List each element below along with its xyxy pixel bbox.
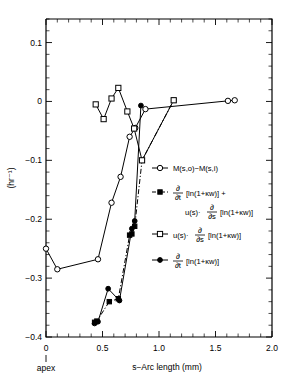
series-line-3 bbox=[95, 106, 141, 324]
y-ticklabel: −0.2 bbox=[25, 214, 42, 224]
marker-open-square bbox=[93, 102, 98, 107]
chart-figure: 00.51.01.52.00.10−0.1−0.2−0.3−0.4s−Arc l… bbox=[0, 0, 299, 384]
axis-frame-top-right bbox=[46, 19, 272, 337]
legend-label-1b-pre: u(s)· bbox=[185, 208, 201, 217]
marker-filled-circle bbox=[132, 219, 137, 224]
marker-filled-circle bbox=[129, 226, 134, 231]
x-ticklabel: 0.5 bbox=[97, 343, 109, 353]
y-ticklabel: −0.4 bbox=[25, 332, 42, 342]
y-ticklabel: −0.1 bbox=[25, 155, 42, 165]
marker-open-square bbox=[125, 109, 130, 114]
legend-frac-den-3: ∂t bbox=[175, 261, 182, 270]
marker-filled-circle bbox=[106, 286, 111, 291]
axis-frame-left-bottom bbox=[46, 19, 272, 337]
x-axis-title: s−Arc length (mm) bbox=[132, 362, 202, 372]
marker-open-circle bbox=[118, 174, 123, 179]
legend-label-2: [ln(1+κw)] bbox=[208, 231, 241, 240]
marker-open-square bbox=[139, 158, 144, 163]
marker-open-circle bbox=[95, 257, 100, 262]
marker-filled-circle bbox=[96, 319, 101, 324]
marker-filled-square bbox=[107, 299, 111, 303]
x-ticklabel: 2.0 bbox=[266, 343, 278, 353]
legend-frac-num-3: ∂ bbox=[176, 252, 180, 261]
marker-open-circle bbox=[157, 165, 162, 170]
marker-open-square bbox=[116, 85, 121, 90]
marker-open-square bbox=[132, 126, 137, 131]
marker-filled-square bbox=[158, 190, 162, 194]
marker-open-circle bbox=[109, 200, 114, 205]
legend-label-0: M(s,o)−M(s,i) bbox=[173, 164, 218, 173]
legend-frac-den-1b: ∂s bbox=[208, 212, 216, 221]
marker-open-circle bbox=[43, 246, 48, 251]
legend-frac-num-2: ∂ bbox=[198, 226, 202, 235]
marker-open-square bbox=[101, 117, 106, 122]
marker-open-circle bbox=[143, 106, 148, 111]
legend-frac-den-2: ∂s bbox=[196, 235, 204, 244]
y-ticklabel: −0.3 bbox=[25, 273, 42, 283]
chart-svg: 00.51.01.52.00.10−0.1−0.2−0.3−0.4s−Arc l… bbox=[0, 0, 299, 384]
legend-frac-num-1b: ∂ bbox=[210, 203, 214, 212]
series-line-2 bbox=[96, 88, 174, 160]
marker-open-square bbox=[157, 231, 162, 236]
marker-open-square bbox=[109, 96, 114, 101]
marker-filled-circle bbox=[158, 258, 163, 263]
marker-filled-circle bbox=[117, 298, 122, 303]
x-ticklabel: 1.5 bbox=[210, 343, 222, 353]
x-ticklabel: 0 bbox=[44, 343, 49, 353]
legend-label-1a: [ln(1+κw)] + bbox=[186, 189, 226, 198]
marker-open-circle bbox=[232, 98, 237, 103]
marker-open-circle bbox=[225, 98, 230, 103]
legend-frac-den-1: ∂t bbox=[175, 193, 182, 202]
legend-label-2-pre: u(s)· bbox=[173, 231, 189, 240]
y-ticklabel: 0.1 bbox=[30, 38, 42, 48]
marker-open-square bbox=[171, 98, 176, 103]
marker-filled-circle bbox=[139, 103, 144, 108]
marker-open-circle bbox=[55, 267, 60, 272]
apex-label: apex bbox=[37, 363, 56, 373]
series-line-0 bbox=[46, 100, 235, 269]
legend-frac-num-1: ∂ bbox=[176, 184, 180, 193]
y-axis-title: (hr⁻¹) bbox=[6, 167, 16, 188]
legend-label-1b: [ln(1+κw)] bbox=[220, 208, 253, 217]
marker-open-circle bbox=[127, 134, 132, 139]
x-ticklabel: 1.0 bbox=[153, 343, 165, 353]
legend-label-3: [ln(1+κw)] bbox=[186, 257, 219, 266]
y-ticklabel: 0 bbox=[37, 96, 42, 106]
